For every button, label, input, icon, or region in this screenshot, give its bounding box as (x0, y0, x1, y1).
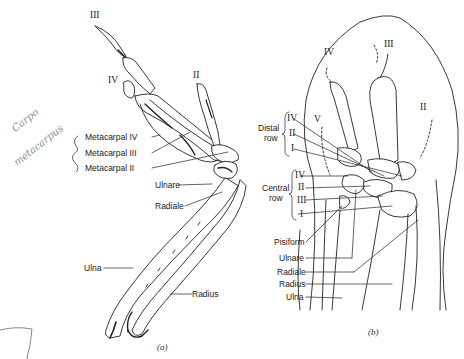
panel-a-label-radius: Radius (192, 290, 218, 299)
distal-row-item-iv: IV (287, 114, 297, 124)
panel-b-label-radius: Radius (279, 280, 305, 289)
panel-b-digit-iv-label: IV (324, 48, 334, 58)
panel-b-digit-ii-label: II (420, 103, 426, 113)
panel-a-caption: (a) (157, 343, 168, 352)
panel-b-digit-iii-label: III (384, 40, 394, 50)
panel-b-label-ulnare: Ulnare (279, 254, 304, 263)
label-metacarpal-iii: Metacarpal III (85, 149, 137, 158)
diagram-drawing (0, 0, 464, 359)
panel-a-digit-iv-label: IV (108, 76, 118, 86)
distal-row-item-i: I (291, 144, 294, 154)
panel-a-digit-ii-label: II (193, 71, 199, 81)
panel-b-digit-v-label: V (314, 115, 321, 125)
label-metacarpal-ii: Metacarpal II (85, 164, 134, 173)
central-row-item-iii: III (297, 196, 307, 206)
panel-b-label-radiale: Radiale (277, 268, 306, 277)
distal-row-item-ii: II (289, 129, 295, 139)
central-row-item-ii: II (298, 183, 304, 193)
central-row-item-iv: IV (295, 171, 305, 181)
panel-a-label-radiale: Radiale (155, 202, 184, 211)
panel-b-label-ulna: Ulna (286, 293, 303, 302)
panel-a-label-ulna: Ulna (84, 264, 101, 273)
central-row-title-line1: Central (262, 184, 289, 193)
label-metacarpal-iv: Metacarpal IV (85, 133, 137, 142)
panel-b-caption: (b) (368, 328, 379, 337)
panel-b-label-pisiform: Pisiform (274, 238, 305, 247)
panel-a-digit-iii-label: III (90, 11, 100, 21)
central-row-title-line2: row (269, 194, 283, 203)
panel-b-drawing (298, 16, 458, 310)
anatomy-figure: III IV II Metacarpal IV Metacarpal III M… (0, 0, 464, 359)
distal-row-title-line2: row (264, 134, 278, 143)
distal-row-title-line1: Distal (258, 124, 279, 133)
panel-a-label-ulnare: Ulnare (155, 181, 180, 190)
brace-metacarpals (72, 136, 78, 172)
central-row-item-i: I (300, 210, 303, 220)
